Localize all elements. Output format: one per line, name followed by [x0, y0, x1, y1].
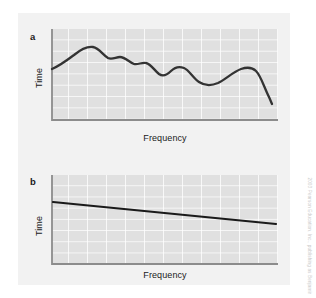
panel-letter-b: b: [30, 177, 36, 187]
panel-b-x-axis-label: Frequency: [18, 270, 290, 280]
panel-a-x-axis-label: Frequency: [18, 133, 290, 143]
panel-b-grid: [52, 175, 278, 264]
panel-b-plot: [50, 175, 278, 273]
figure-card: a Time Frequency b Time: [18, 13, 290, 285]
copyright-text: © 2003 Pearson Education, Inc., publishi…: [307, 176, 312, 291]
chart-panel-a: a Time Frequency: [18, 13, 290, 151]
copyright-strip: © 2003 Pearson Education, Inc., publishi…: [303, 176, 315, 294]
panel-letter-a: a: [30, 32, 35, 42]
chart-panel-b: b Time Frequency: [18, 151, 290, 285]
panel-a-plot: [50, 29, 278, 131]
panel-a-y-axis-label: Time: [34, 56, 44, 100]
panel-b-y-axis-label: Time: [34, 204, 44, 248]
